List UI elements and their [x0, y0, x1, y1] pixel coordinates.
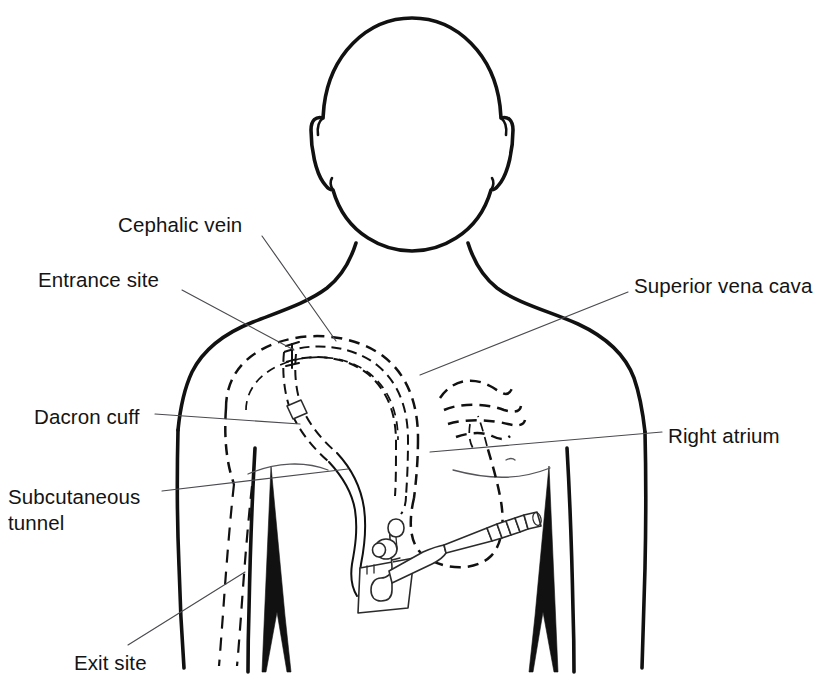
slide-clamp-upper-loop: [388, 519, 404, 537]
exit-site-device-group: [358, 512, 542, 613]
diagram-canvas: [0, 0, 828, 687]
rib-wedge-right: [529, 466, 558, 672]
branch-vessel-middle: [448, 420, 525, 425]
jaw-notch-right: [491, 178, 493, 190]
label-exit-site: Exit site: [74, 650, 147, 676]
slide-clamp-ring-inner: [373, 543, 386, 557]
jaw-notch-left: [331, 178, 333, 190]
leader-dacron-cuff: [155, 414, 300, 424]
label-entrance-site: Entrance site: [38, 267, 159, 293]
neck-and-shoulder-left: [178, 243, 356, 430]
label-right-atrium: Right atrium: [668, 423, 780, 449]
catheter-diagram: Cephalic vein Entrance site Superior ven…: [0, 0, 828, 687]
luer-hub-shaft: [444, 528, 492, 553]
dacron-cuff-marker: [287, 400, 307, 419]
leader-exit-site: [128, 572, 245, 645]
label-subcutaneous-tunnel: Subcutaneous tunnel: [8, 484, 140, 536]
torso-arm-separation-left: [248, 448, 255, 672]
label-dacron-cuff: Dacron cuff: [34, 404, 140, 430]
catheter-tip-in-atrium: [401, 496, 406, 514]
catheter-intravascular-wall-a: [284, 346, 408, 496]
nipple-mark-right: [506, 459, 515, 461]
ear-notch-left: [318, 118, 323, 135]
label-superior-vena-cava: Superior vena cava: [634, 273, 812, 299]
torso-arm-separation-right: [567, 448, 574, 672]
arm-outline-left: [177, 430, 184, 668]
leader-entrance-site: [182, 290, 294, 350]
label-cephalic-vein: Cephalic vein: [118, 212, 242, 238]
branch-vessel-lower: [456, 433, 510, 439]
branch-vessel-upper: [444, 405, 521, 412]
rib-wedge-left: [262, 466, 291, 672]
catheter-external-wall-a: [329, 462, 357, 596]
arm-outline-right: [642, 432, 646, 668]
neck-and-shoulder-right: [468, 243, 645, 432]
cephalic-vein-inner-wall: [246, 357, 398, 440]
aortic-arch: [440, 381, 513, 398]
arm-vein-outer: [219, 484, 234, 666]
head-outline: [311, 18, 513, 251]
breast-contour-right: [453, 468, 550, 477]
cephalic-vein-outer-wall: [226, 336, 418, 438]
svc-outer-wall: [414, 438, 418, 498]
ear-notch-right: [501, 118, 506, 135]
